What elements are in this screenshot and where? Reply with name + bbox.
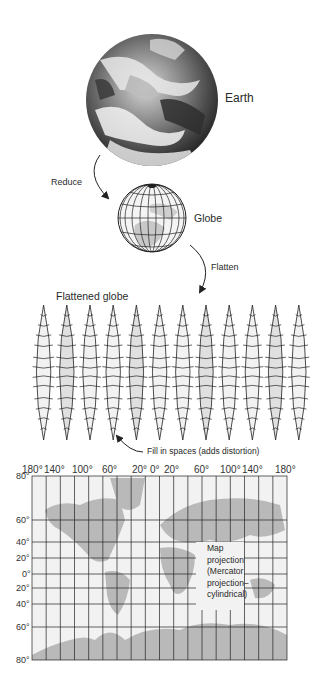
- longitude-tick: 100°: [220, 464, 241, 475]
- map-caption-line: (Mercator: [207, 566, 249, 578]
- map-caption-line: projection–: [207, 578, 249, 590]
- map-caption-line: cylindrical): [207, 589, 249, 601]
- latitude-tick: 40°: [16, 599, 30, 609]
- latitude-tick: 80°: [16, 655, 30, 665]
- globe-graticule: [118, 184, 186, 252]
- globe-label: Globe: [194, 212, 222, 224]
- latitude-tick: 20°: [16, 553, 30, 563]
- earth-photo: [86, 34, 218, 170]
- latitude-tick: 0°: [22, 569, 31, 579]
- flatten-arrow: [190, 245, 206, 292]
- longitude-tick: 20°: [132, 464, 147, 475]
- longitude-tick: 20°: [164, 464, 179, 475]
- longitude-tick: 180°: [275, 464, 296, 475]
- map-caption-line: Map: [207, 543, 249, 555]
- flattened-globe-label: Flattened globe: [56, 290, 128, 302]
- fill-in-arrow: [117, 436, 143, 452]
- latitude-tick: 40°: [16, 537, 30, 547]
- longitude-tick: 60°: [102, 464, 117, 475]
- longitude-tick: 140°: [242, 464, 263, 475]
- latitude-tick: 20°: [16, 583, 30, 593]
- fill-in-label: Fill in spaces (adds distortion): [147, 446, 259, 456]
- earth-label: Earth: [225, 91, 254, 105]
- latitude-tick: 80°: [16, 471, 30, 481]
- mercator-map: [32, 476, 287, 660]
- map-caption-line: projection: [207, 555, 249, 567]
- longitude-tick: 0°: [150, 464, 160, 475]
- longitude-tick: 100°: [72, 464, 93, 475]
- diagram-canvas: [0, 0, 316, 695]
- flatten-label: Flatten: [211, 262, 239, 272]
- reduce-label: Reduce: [51, 177, 82, 187]
- latitude-tick: 60°: [16, 622, 30, 632]
- latitude-tick: 60°: [16, 515, 30, 525]
- longitude-tick: 140°: [44, 464, 65, 475]
- reduce-arrow: [94, 155, 108, 198]
- longitude-tick: 60°: [194, 464, 209, 475]
- map-caption: Map projection (Mercator projection– cyl…: [207, 543, 249, 601]
- flattened-globe-gores: [33, 305, 310, 440]
